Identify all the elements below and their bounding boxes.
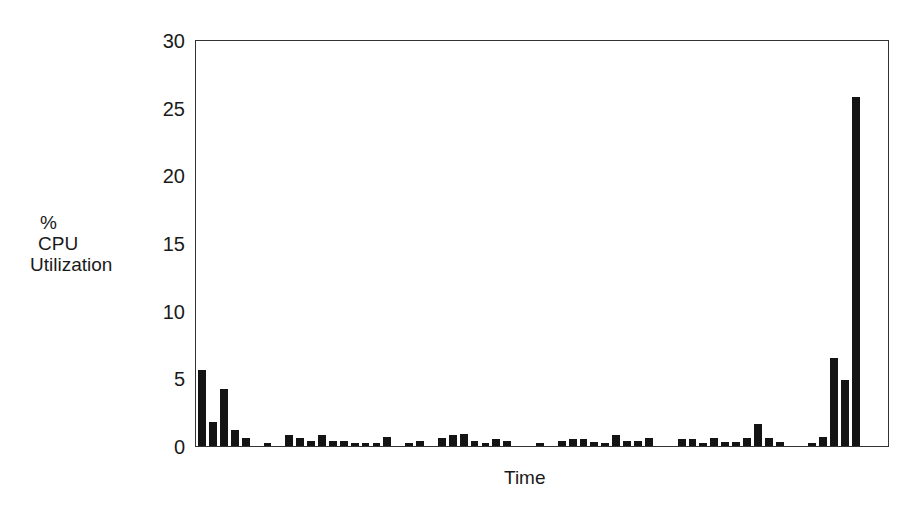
bar: [808, 443, 816, 446]
bar: [590, 442, 598, 446]
bar: [710, 438, 718, 446]
bar: [416, 441, 424, 446]
bar: [558, 441, 566, 446]
bar: [623, 441, 631, 446]
bar: [329, 441, 337, 446]
bar: [569, 439, 577, 446]
bar: [765, 438, 773, 446]
bar: [492, 439, 500, 446]
bar: [482, 443, 490, 446]
bar: [536, 443, 544, 446]
bar: [373, 443, 381, 446]
bar: [318, 435, 326, 446]
y-tick-30: 30: [163, 31, 185, 51]
bar: [405, 443, 413, 446]
bar: [754, 424, 762, 446]
bar: [307, 441, 315, 446]
y-axis-label-line-1: %: [30, 212, 112, 233]
bar: [220, 389, 228, 446]
bar: [471, 441, 479, 446]
bar: [264, 443, 272, 446]
bar-series: [196, 40, 888, 446]
bar: [819, 437, 827, 446]
y-tick-5: 5: [174, 369, 185, 389]
bar: [340, 441, 348, 446]
y-axis-label-line-3: Utilization: [30, 254, 112, 275]
bar: [612, 435, 620, 446]
bar: [830, 358, 838, 446]
bar: [198, 370, 206, 446]
bar: [503, 441, 511, 446]
x-axis-label: Time: [504, 467, 546, 489]
bar: [383, 437, 391, 446]
bar: [841, 380, 849, 446]
bar: [285, 435, 293, 446]
bar: [743, 438, 751, 446]
bar: [678, 439, 686, 446]
y-axis-label-line-2: CPU: [30, 233, 112, 254]
bar: [699, 443, 707, 446]
y-tick-15: 15: [163, 234, 185, 254]
y-tick-0: 0: [174, 437, 185, 457]
bar: [721, 442, 729, 446]
y-axis-label: % CPU Utilization: [30, 212, 112, 275]
bar: [580, 439, 588, 446]
y-tick-20: 20: [163, 166, 185, 186]
bar: [460, 434, 468, 446]
y-tick-25: 25: [163, 99, 185, 119]
bar: [438, 438, 446, 446]
bar: [449, 435, 457, 446]
bar: [209, 422, 217, 446]
bar: [296, 438, 304, 446]
bar: [351, 443, 359, 446]
bar: [601, 443, 609, 446]
bar: [732, 442, 740, 446]
bar: [776, 442, 784, 446]
bar: [362, 443, 370, 446]
bar: [645, 438, 653, 446]
bar: [242, 438, 250, 446]
bar: [852, 97, 860, 446]
bar: [634, 441, 642, 446]
y-tick-10: 10: [163, 302, 185, 322]
bar: [689, 439, 697, 446]
bar: [231, 430, 239, 446]
